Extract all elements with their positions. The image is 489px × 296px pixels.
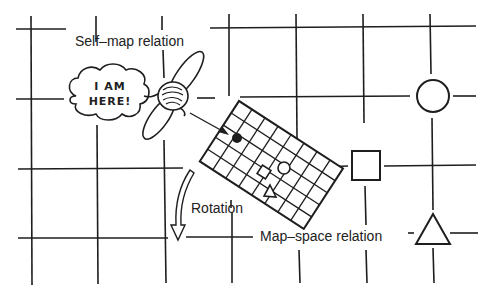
self-position-dot — [232, 133, 242, 143]
bubble-text: I AM HERE! — [84, 79, 136, 109]
self-map-relation-label: Self–map relation — [75, 33, 184, 49]
diagram: Self–map relation Rotation Map–space rel… — [0, 0, 489, 296]
map-circle — [278, 162, 290, 174]
bubble-line-1: I AM — [84, 79, 136, 94]
triangle-landmark — [416, 214, 450, 244]
diagram-graphics — [0, 0, 489, 296]
map-space-relation-label: Map–space relation — [260, 228, 382, 244]
bubble-line-2: HERE! — [84, 94, 136, 109]
rotation-label: Rotation — [191, 200, 243, 216]
circle-landmark — [417, 80, 449, 112]
square-landmark — [352, 151, 380, 180]
